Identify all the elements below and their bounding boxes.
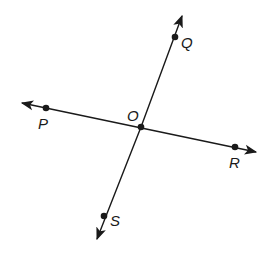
- label-O: O: [127, 107, 139, 124]
- point-S-dot: [101, 213, 108, 220]
- label-Q: Q: [181, 34, 193, 51]
- point-R-dot: [232, 144, 239, 151]
- intersecting-lines-diagram: Q P O R S: [0, 0, 274, 255]
- point-O-dot: [138, 124, 145, 131]
- point-Q-dot: [172, 34, 179, 41]
- point-P-dot: [43, 105, 50, 112]
- label-S: S: [110, 212, 120, 229]
- diagram-canvas: Q P O R S: [0, 0, 274, 255]
- label-P: P: [38, 115, 48, 132]
- label-R: R: [229, 154, 240, 171]
